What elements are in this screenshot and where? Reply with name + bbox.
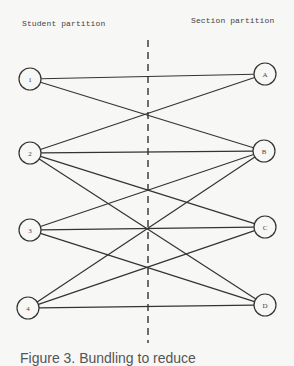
node-label: D — [262, 302, 267, 310]
node-label: 3 — [28, 227, 32, 235]
node-A: A — [254, 63, 276, 85]
node-label: C — [263, 224, 268, 232]
node-C: C — [254, 216, 276, 238]
edge-1-B — [41, 82, 254, 148]
node-D: D — [254, 294, 276, 316]
node-label: A — [262, 71, 267, 79]
node-label: 4 — [26, 305, 30, 313]
node-label: 2 — [28, 150, 32, 158]
edge-3-B — [40, 155, 253, 227]
node-2: 2 — [19, 142, 41, 164]
node-1: 1 — [19, 68, 41, 90]
edge-2-B — [41, 151, 253, 153]
edge-4-C — [38, 231, 254, 305]
node-4: 4 — [17, 297, 39, 319]
node-label: B — [262, 148, 267, 156]
node-label: 1 — [28, 76, 32, 84]
node-B: B — [253, 140, 275, 162]
figure-caption: Figure 3. Bundling to reduce — [20, 350, 196, 366]
node-3: 3 — [19, 219, 41, 241]
edge-4-D — [39, 305, 254, 308]
edges — [37, 74, 256, 308]
